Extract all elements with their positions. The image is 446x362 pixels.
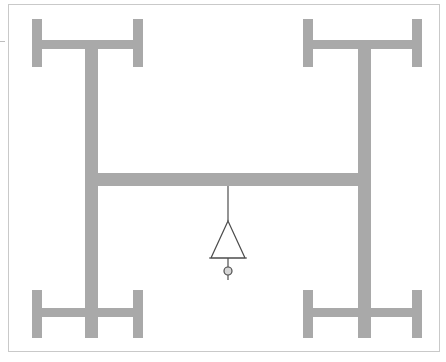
- diagram-canvas: [0, 0, 446, 362]
- structural-frame-diagram: [0, 0, 446, 362]
- left-column: [85, 40, 98, 186]
- right-column: [358, 40, 371, 186]
- support-node-circle-icon: [224, 267, 232, 275]
- bottom-left-web-beam: [32, 308, 143, 317]
- bottom-right-web-beam: [303, 308, 422, 317]
- main-girder: [85, 173, 371, 186]
